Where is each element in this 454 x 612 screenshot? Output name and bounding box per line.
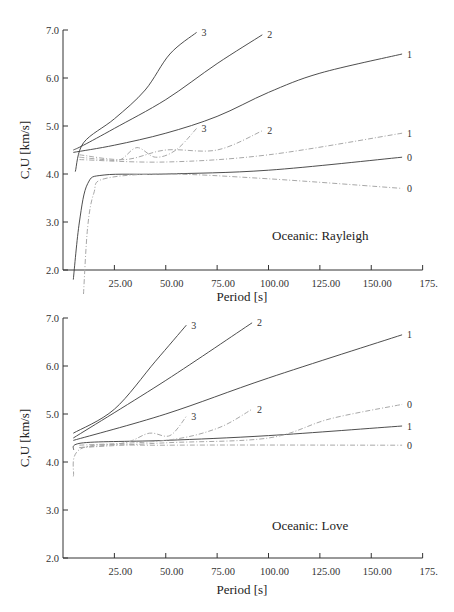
rayleigh-x-axis-title: Period [s] [217, 289, 268, 304]
love-chart: 2.03.04.05.06.07.025.0050.0075.00100.001… [46, 313, 438, 577]
rayleigh-x-tick-label: 25.00 [109, 278, 133, 289]
rayleigh-curve [79, 133, 402, 162]
rayleigh-x-tick-label: 125.00 [311, 278, 340, 289]
love-y-tick-label: 2.0 [46, 553, 59, 564]
rayleigh-curve-label: 1 [407, 49, 412, 60]
love-y-tick-label: 4.0 [46, 457, 59, 468]
rayleigh-y-tick-label: 7.0 [46, 25, 59, 36]
rayleigh-x-tick-label: 175. [419, 278, 437, 289]
love-y-tick-label: 5.0 [46, 409, 59, 420]
love-curve [73, 325, 186, 433]
love-x-axis-title: Period [s] [217, 582, 268, 597]
rayleigh-curve-label: 3 [202, 123, 207, 134]
dispersion-charts: 2.03.04.05.06.07.025.0050.0075.00100.001… [0, 0, 454, 612]
love-y-tick-label: 6.0 [46, 361, 59, 372]
rayleigh-chart: 2.03.04.05.06.07.025.0050.0075.00100.001… [46, 25, 438, 294]
rayleigh-x-tick-label: 50.00 [160, 278, 184, 289]
love-curve-label: 0 [407, 399, 412, 410]
rayleigh-curve [73, 54, 402, 152]
love-curve [73, 426, 402, 450]
love-curve-label: 0 [407, 440, 412, 451]
rayleigh-y-tick-label: 6.0 [46, 73, 59, 84]
rayleigh-curve-label: 0 [407, 152, 412, 163]
love-y-tick-label: 7.0 [46, 313, 59, 324]
love-x-tick-label: 100.00 [260, 566, 289, 577]
rayleigh-curve-label: 0 [407, 183, 412, 194]
love-x-tick-label: 50.00 [160, 566, 184, 577]
love-x-tick-label: 25.00 [109, 566, 133, 577]
rayleigh-y-tick-label: 2.0 [46, 265, 59, 276]
rayleigh-curve-label: 3 [202, 27, 207, 38]
rayleigh-y-tick-label: 4.0 [46, 169, 59, 180]
rayleigh-y-tick-label: 3.0 [46, 217, 59, 228]
rayleigh-curve-label: 2 [267, 125, 272, 136]
rayleigh-curve-label: 1 [407, 128, 412, 139]
rayleigh-curve [75, 32, 196, 171]
rayleigh-x-tick-label: 100.00 [260, 278, 289, 289]
love-curve [73, 323, 252, 438]
love-annotation: Oceanic: Love [272, 518, 348, 533]
love-curve-label: 3 [191, 411, 196, 422]
love-x-tick-label: 125.00 [311, 566, 340, 577]
love-curve-label: 2 [257, 317, 262, 328]
love-curve [79, 409, 252, 445]
rayleigh-x-tick-label: 75.00 [211, 278, 235, 289]
love-curve-label: 1 [407, 421, 412, 432]
rayleigh-x-tick-label: 150.00 [363, 278, 392, 289]
rayleigh-annotation: Oceanic: Rayleigh [272, 228, 369, 243]
love-y-tick-label: 3.0 [46, 505, 59, 516]
love-curve-label: 1 [407, 329, 412, 340]
love-curve [73, 445, 402, 477]
love-y-axis-title: C,U [km/s] [17, 409, 32, 468]
love-curve [73, 335, 402, 441]
rayleigh-curve-label: 2 [267, 29, 272, 40]
rayleigh-curve [79, 131, 262, 160]
love-curve-label: 2 [257, 404, 262, 415]
love-x-tick-label: 150.00 [363, 566, 392, 577]
rayleigh-curve [79, 128, 196, 160]
rayleigh-y-axis-title: C,U [km/s] [17, 121, 32, 180]
love-x-tick-label: 175. [419, 566, 437, 577]
rayleigh-y-tick-label: 5.0 [46, 121, 59, 132]
love-x-tick-label: 75.00 [211, 566, 235, 577]
love-curve-label: 3 [191, 320, 196, 331]
